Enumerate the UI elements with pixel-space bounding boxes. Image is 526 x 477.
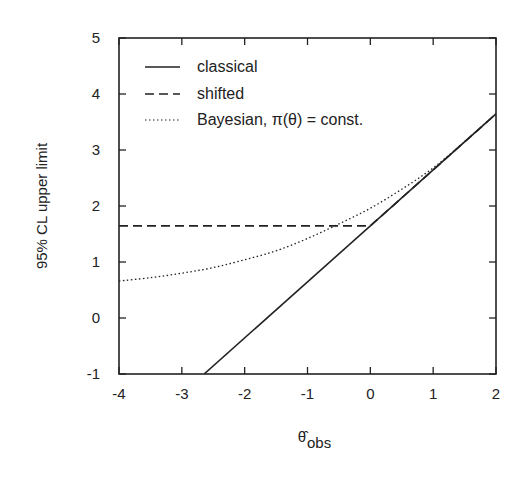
legend-label: Bayesian, π(θ) = const. xyxy=(197,111,363,128)
x-tick-label: -4 xyxy=(112,385,125,402)
x-tick-label: -3 xyxy=(175,385,188,402)
x-tick-label: -2 xyxy=(238,385,251,402)
y-tick-label: 3 xyxy=(92,141,100,158)
x-tick-label: 1 xyxy=(429,385,437,402)
y-tick-label: 5 xyxy=(92,29,100,46)
series-solid-line xyxy=(204,114,496,374)
chart: -4-3-2-1012-1012345classicalshiftedBayes… xyxy=(0,0,526,477)
y-tick-label: 0 xyxy=(92,309,100,326)
y-tick-label: 1 xyxy=(92,253,100,270)
y-tick-label: -1 xyxy=(87,365,100,382)
y-tick-label: 2 xyxy=(92,197,100,214)
legend-label: classical xyxy=(197,58,257,75)
legend-label: shifted xyxy=(197,85,244,102)
series-dashed-line xyxy=(119,114,496,226)
x-axis-subscript: obs xyxy=(307,434,331,451)
x-tick-label: 2 xyxy=(492,385,500,402)
x-tick-label: 0 xyxy=(366,385,374,402)
series-dotted-line xyxy=(119,114,496,281)
plot-frame xyxy=(119,38,496,374)
y-axis-title: 95% CL upper limit xyxy=(33,142,50,269)
x-tick-label: -1 xyxy=(301,385,314,402)
y-tick-label: 4 xyxy=(92,85,100,102)
